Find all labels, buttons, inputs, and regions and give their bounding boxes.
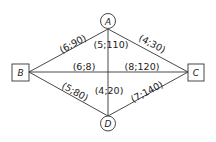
edge-label-a-c: (4;30) [137,32,168,55]
node-b-label: B [17,68,23,78]
edge-label-d-a: (4;20) [95,85,124,96]
edge-label-a-d: (5;110) [94,39,129,50]
edge-label-b-d: (5;80) [60,80,90,104]
network-diagram: A B C D (6;90) (4;30) (5;110) (6;8) (8;1… [0,0,216,142]
edge-label-b-c-left: (6;8) [73,61,96,72]
node-a-label: A [104,17,111,27]
node-c-label: C [193,68,200,78]
node-d-label: D [105,119,112,129]
edge-label-b-a: (6;90) [57,32,88,55]
edge-label-b-c-right: (8;120) [125,61,160,72]
edge-label-d-c: (7;140) [129,79,165,105]
